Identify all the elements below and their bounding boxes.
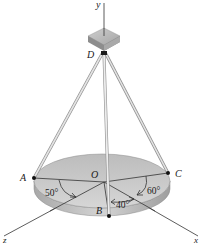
point-B: [107, 214, 111, 218]
point-C: [166, 171, 170, 175]
point-B-label: B: [96, 206, 102, 216]
point-A-label: A: [20, 173, 26, 183]
y-axis-label: y: [96, 0, 100, 10]
point-O-label: O: [91, 170, 98, 180]
angle-50-label: 50°: [45, 189, 58, 199]
connector-D: [101, 51, 107, 55]
point-C-label: C: [175, 169, 182, 179]
angle-60-label: 60°: [147, 187, 160, 197]
x-axis-label: x: [194, 236, 198, 245]
tripod-disc-diagram: y D A O C B z x 50° 60° 40°: [0, 0, 202, 247]
point-A: [32, 176, 36, 180]
point-D-label: D: [87, 50, 94, 60]
angle-40-label: 40°: [116, 201, 129, 211]
z-axis-label: z: [3, 236, 7, 245]
